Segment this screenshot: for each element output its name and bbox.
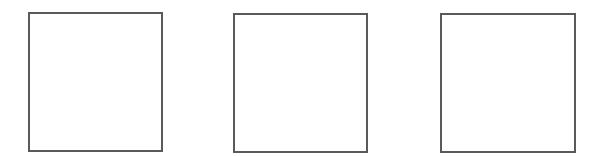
empty-square-box: [28, 12, 163, 152]
empty-square-box: [440, 13, 576, 153]
empty-square-box: [233, 13, 368, 153]
